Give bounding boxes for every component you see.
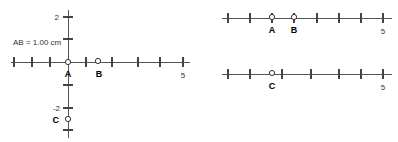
point-a-label: A xyxy=(65,69,72,79)
point-b-top-right: B xyxy=(291,14,298,35)
point-b-label: B xyxy=(96,69,103,79)
point-b-marker xyxy=(291,14,296,19)
point-b-marker xyxy=(95,58,100,63)
point-c-marker xyxy=(269,70,274,75)
y-axis-label-negative-2: -2 xyxy=(53,104,61,113)
point-a-label: A xyxy=(269,25,276,35)
point-a-left: A xyxy=(65,59,72,79)
number-line-ab-end-label: 5 xyxy=(381,27,386,36)
point-c-label: C xyxy=(53,115,60,125)
number-line-c-end-label: 5 xyxy=(381,83,386,92)
x-axis-label-5: 5 xyxy=(181,71,186,80)
figure-canvas: 5 2 -2 AB = 1.00 cm A B C xyxy=(0,0,398,142)
y-axis-label-2: 2 xyxy=(55,13,60,22)
point-c-label: C xyxy=(269,81,276,91)
point-c-bottom-right: C xyxy=(269,70,276,91)
point-a-marker xyxy=(65,59,70,64)
point-b-label: B xyxy=(291,25,298,35)
geometry-figure: 5 2 -2 AB = 1.00 cm A B C xyxy=(0,0,398,142)
number-line-ab: 5 A B xyxy=(222,13,392,36)
coordinate-plane: 5 2 -2 AB = 1.00 cm A B C xyxy=(11,10,190,138)
point-b-left: B xyxy=(95,58,102,79)
number-line-c: 5 C xyxy=(222,69,392,92)
point-a-marker xyxy=(269,14,274,19)
point-c-marker xyxy=(65,116,70,121)
point-a-top-right: A xyxy=(269,14,276,35)
measurement-label: AB = 1.00 cm xyxy=(13,38,62,47)
